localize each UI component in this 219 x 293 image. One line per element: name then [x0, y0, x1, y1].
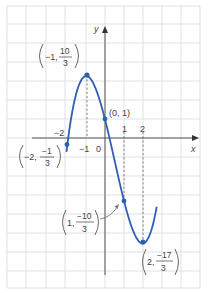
tick-label-neg2: −2: [54, 128, 64, 138]
x-axis-label: x: [190, 144, 196, 154]
tick-label-2: 2: [140, 124, 145, 134]
arrow-to-inflection-icon: [100, 206, 118, 219]
svg-text:−10: −10: [77, 211, 92, 221]
point-min: [140, 239, 145, 244]
y-axis-arrow-icon: [102, 26, 108, 33]
paren-open: [40, 44, 44, 68]
svg-text:2,: 2,: [147, 257, 155, 267]
label-inflection: 1, −10 3: [63, 204, 120, 235]
svg-text:−2,: −2,: [24, 152, 37, 162]
svg-text:3: 3: [82, 224, 87, 234]
svg-text:−1: −1: [42, 146, 52, 156]
point-max: [84, 72, 89, 77]
svg-text:3: 3: [161, 263, 166, 273]
grid-lines: [7, 6, 200, 288]
tick-label-neg1: −1: [79, 144, 89, 154]
svg-text:3: 3: [63, 58, 68, 68]
axes: [32, 26, 199, 275]
tick-label-0: 0: [96, 144, 101, 154]
x-axis-arrow-icon: [192, 135, 199, 141]
label-max: −1, 10 3: [40, 44, 79, 68]
svg-text:−17: −17: [157, 250, 172, 260]
svg-text:−1,: −1,: [45, 52, 58, 62]
svg-text:3: 3: [45, 158, 50, 168]
point-inflection: [122, 199, 127, 204]
point-y-intercept: [103, 117, 108, 122]
cubic-function-graph: y x −2 −1 0 1 2 −1, 10 3 (0, 1) −2, −1 3…: [0, 0, 219, 293]
paren-close: [75, 44, 79, 68]
tick-label-1: 1: [122, 124, 127, 134]
y-axis-label: y: [93, 24, 99, 34]
label-y-intercept: (0, 1): [109, 108, 130, 118]
svg-text:10: 10: [60, 46, 70, 56]
point-left: [65, 142, 70, 147]
svg-text:1,: 1,: [67, 218, 75, 228]
